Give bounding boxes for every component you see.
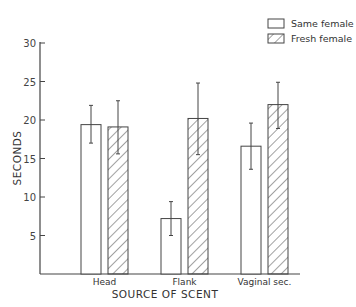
x-category-label: Flank [172,277,197,287]
x-axis-title: SOURCE OF SCENT [112,288,219,300]
y-tick-label: 20 [23,115,36,126]
legend-swatch-same-female [268,19,284,28]
bar-head-same-female [81,125,101,274]
bar-chart: Same female Fresh female 51015202530 Hea… [0,0,356,307]
y-tick-label: 5 [30,231,36,242]
y-tick-label: 10 [23,192,36,203]
legend-label-same-female: Same female [291,18,354,29]
bar-vaginal-sec--fresh-female [268,105,288,274]
y-axis-title: SECONDS [11,130,23,185]
bars [81,82,288,274]
y-tick-label: 15 [23,154,36,165]
legend-swatch-fresh-female [268,34,284,43]
y-tick-label: 30 [23,38,36,49]
y-ticks: 51015202530 [23,38,45,242]
legend-label-fresh-female: Fresh female [291,33,352,44]
y-tick-label: 25 [23,77,36,88]
x-category-labels: HeadFlankVaginal sec. [93,277,292,287]
x-category-label: Head [93,277,117,287]
x-category-label: Vaginal sec. [238,277,292,287]
legend: Same female Fresh female [268,18,354,44]
